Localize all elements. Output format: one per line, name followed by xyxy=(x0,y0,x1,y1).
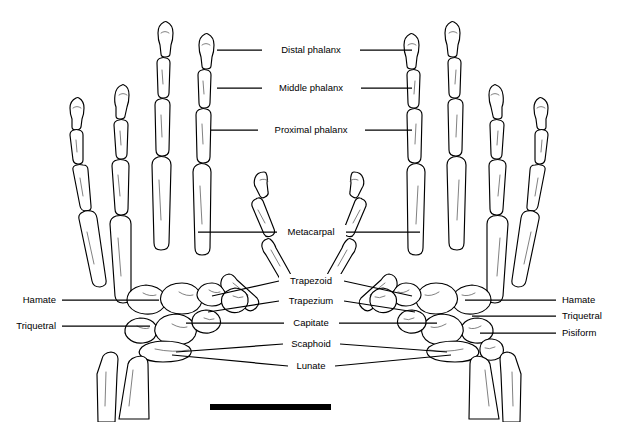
left-middle-finger xyxy=(152,22,173,251)
label-proximal-phalanx: Proximal phalanx xyxy=(275,124,348,135)
label-trapezoid: Trapezoid xyxy=(290,275,332,286)
left-ulna xyxy=(97,352,118,422)
right-scaphoid xyxy=(398,310,427,333)
left-ring-finger xyxy=(110,85,131,304)
leader-scaphoid-left xyxy=(176,344,283,352)
left-little-finger xyxy=(70,98,106,288)
right-lunate xyxy=(422,314,464,345)
right-radius xyxy=(469,356,499,419)
left-hand-skeleton xyxy=(70,22,291,422)
leader-lunate-left xyxy=(172,355,288,366)
right-ulna xyxy=(500,352,521,422)
left-radius xyxy=(119,356,149,419)
left-capitate xyxy=(161,283,203,314)
label-pisiform-right: Pisiform xyxy=(562,327,596,338)
label-hamate-right: Hamate xyxy=(562,294,595,305)
right-capitate xyxy=(416,283,458,314)
leader-lunate-right xyxy=(335,355,451,366)
label-capitate: Capitate xyxy=(293,317,328,328)
right-middle-finger xyxy=(445,22,466,251)
label-middle-phalanx: Middle phalanx xyxy=(279,82,343,93)
right-little-finger xyxy=(512,98,548,288)
label-scaphoid: Scaphoid xyxy=(291,338,331,349)
scale-bar xyxy=(210,404,331,410)
label-trapezium: Trapezium xyxy=(289,295,334,306)
left-forearm-bones xyxy=(97,352,149,422)
label-triquetral-left: Triquetral xyxy=(16,320,56,331)
left-triquetral xyxy=(125,318,157,343)
left-index-finger xyxy=(193,34,214,256)
right-forearm-bones xyxy=(469,352,521,422)
label-triquetral-right: Triquetral xyxy=(562,310,602,321)
label-metacarpal: Metacarpal xyxy=(288,226,335,237)
right-ring-finger xyxy=(487,85,508,304)
right-index-finger xyxy=(404,34,425,256)
label-hamate-left: Hamate xyxy=(23,294,56,305)
label-distal-phalanx: Distal phalanx xyxy=(281,44,341,55)
left-lunate xyxy=(155,314,197,345)
left-scaphoid xyxy=(192,310,221,333)
label-lunate: Lunate xyxy=(296,360,325,371)
hand-skeleton-figure: Skeletal anatomy of the human hands (dor… xyxy=(0,0,618,422)
label-texts: Distal phalanx Middle phalanx Proximal p… xyxy=(16,43,602,373)
hand-skeleton-illustration: Skeletal anatomy of the human hands (dor… xyxy=(0,0,618,422)
